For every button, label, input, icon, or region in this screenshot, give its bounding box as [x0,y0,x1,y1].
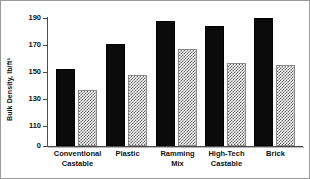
y-tick-label: 110 [15,122,41,130]
x-axis-line-shadow [48,147,304,148]
bar-solid [254,18,273,146]
plot-area [48,11,303,146]
bar-hatched [178,49,197,146]
bar-solid [156,21,175,146]
bar-chart-figure: Bulk Density, lb/ft³ 190 170 150 130 110… [0,0,310,179]
bar-hatched [78,90,97,147]
bar-hatched [227,63,246,147]
y-tick-label: 170 [15,41,41,49]
bar-group [56,11,99,146]
x-axis-line [47,146,303,147]
x-axis-category-labels: Conventional CastablePlasticRamming MixH… [48,149,303,179]
y-tick-label: 0 [15,142,41,150]
y-tick-label: 150 [15,68,41,76]
bar-solid [205,26,224,146]
y-tick-label: 130 [15,95,41,103]
bar-solid [56,69,75,146]
bar-hatched [276,65,295,146]
bar-group [106,11,149,146]
y-axis-tick-labels: 190 170 150 130 110 0 [13,1,41,179]
bar-solid [106,44,125,146]
bar-hatched [128,75,147,146]
x-category-label: Brick [246,149,305,159]
y-axis-title-text: Bulk Density, lb/ft³ [6,58,13,121]
bar-group [205,11,248,146]
bar-group [156,11,199,146]
bar-group [254,11,297,146]
y-tick-label: 190 [15,14,41,22]
